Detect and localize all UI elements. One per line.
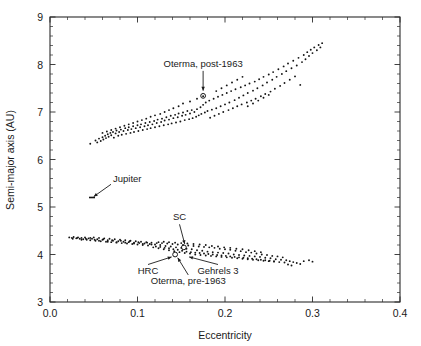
data-point [120, 129, 122, 131]
annot-hrc-leader [148, 256, 172, 264]
data-point [226, 92, 228, 94]
data-point [179, 251, 181, 253]
data-point [256, 258, 258, 260]
data-point [178, 112, 180, 114]
data-point [147, 245, 149, 247]
annot-sc: SC [173, 211, 186, 222]
x-tick-label: 0.0 [43, 307, 58, 319]
data-point [130, 128, 132, 130]
data-point [109, 238, 111, 240]
data-point [228, 253, 230, 255]
data-point [180, 242, 182, 244]
data-point [276, 76, 278, 78]
data-point [222, 111, 224, 113]
data-point [199, 244, 201, 246]
annot-oterma-post: Oterma, post-1963 [164, 58, 243, 69]
data-point [200, 113, 202, 115]
data-point [124, 242, 126, 244]
data-point [158, 125, 160, 127]
data-point [168, 241, 170, 243]
annot-gehrels3: Gehrels 3 [197, 265, 238, 276]
data-point [215, 90, 217, 92]
data-point [218, 113, 220, 115]
data-point [68, 236, 70, 238]
data-point [146, 242, 148, 244]
data-point [256, 87, 258, 89]
data-point [161, 242, 163, 244]
data-point [195, 116, 197, 118]
data-point [268, 94, 270, 96]
data-point [312, 52, 314, 54]
data-point [263, 260, 265, 262]
data-point [312, 261, 314, 263]
data-point [305, 58, 307, 60]
data-point [235, 250, 237, 252]
data-point [281, 73, 283, 75]
data-point [258, 78, 260, 80]
data-point [179, 121, 181, 123]
marker-sc [181, 245, 186, 250]
data-point [102, 132, 104, 134]
data-point [172, 248, 174, 250]
data-point [112, 131, 114, 133]
data-point [224, 103, 226, 105]
data-point [264, 259, 266, 261]
data-point [188, 118, 190, 120]
data-point [202, 104, 204, 106]
annot-sc-leader [180, 224, 186, 244]
data-point [168, 249, 170, 251]
data-point [201, 250, 203, 252]
data-point [193, 245, 195, 247]
data-point [260, 259, 262, 261]
data-point [244, 84, 246, 86]
data-point [285, 70, 287, 72]
data-point [205, 102, 207, 104]
data-point [168, 119, 170, 121]
data-point [109, 132, 111, 134]
data-point [236, 105, 238, 107]
data-point [277, 68, 279, 70]
data-point [81, 237, 83, 239]
data-point [260, 251, 262, 253]
data-point [299, 263, 301, 265]
data-point [238, 97, 240, 99]
data-point [193, 243, 195, 245]
data-point [256, 253, 258, 255]
data-point [191, 109, 193, 111]
data-point [242, 76, 244, 78]
data-point [139, 126, 141, 128]
data-point [225, 255, 227, 257]
data-point [141, 119, 143, 121]
data-point [161, 118, 163, 120]
data-point [182, 112, 184, 114]
annot-jupiter: Jupiter [113, 173, 142, 184]
data-point [308, 55, 310, 57]
data-point [151, 242, 153, 244]
data-point [145, 118, 147, 120]
data-point [321, 42, 323, 44]
data-point [211, 245, 213, 247]
data-point [172, 107, 174, 109]
data-point [203, 246, 205, 248]
data-point [89, 143, 91, 145]
data-point [81, 239, 83, 241]
data-point [261, 254, 263, 256]
data-point [186, 110, 188, 112]
data-point [260, 95, 262, 97]
data-point [151, 244, 153, 246]
data-point [274, 88, 276, 90]
data-point [184, 252, 186, 254]
data-point [153, 120, 155, 122]
data-point [270, 257, 272, 259]
data-point [231, 82, 233, 84]
data-point [252, 103, 254, 105]
data-point [242, 257, 244, 259]
data-point [303, 54, 305, 56]
data-point [194, 252, 196, 254]
plot-canvas: 0.00.10.20.30.43456789 Oterma, post-1963… [0, 0, 421, 346]
data-point [287, 264, 289, 266]
data-point [189, 112, 191, 114]
data-point [318, 44, 320, 46]
data-point [167, 123, 169, 125]
data-point [123, 125, 125, 127]
